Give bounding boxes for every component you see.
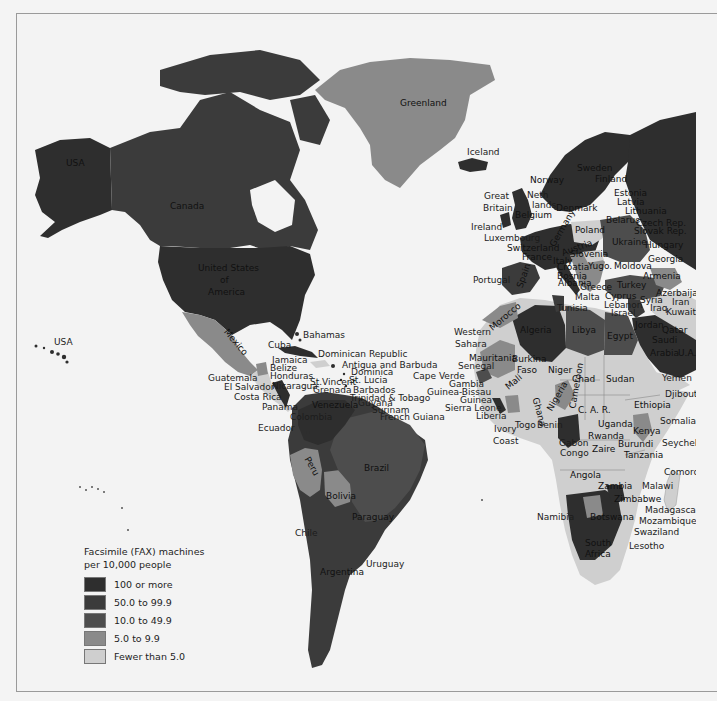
region-hispaniola [310,360,330,368]
legend-swatch [84,595,106,610]
label-niger: Niger [548,365,572,375]
label-ireland: Ireland [471,222,502,232]
label-djibouti: Djibouti [665,389,696,399]
region-arctic-islands [160,50,320,100]
label-finland: Finland [595,174,627,184]
label-netherlands-1: Neth [527,190,549,200]
label-iraq: Iraq [650,303,668,313]
region-iceland [458,158,488,172]
legend-swatch [84,649,106,664]
label-uruguay: Uruguay [366,559,405,569]
label-moldova: Moldova [614,261,652,271]
label-kuwait: Kuwait [666,307,696,317]
label-slovak-rep: Slovak Rep. [634,226,687,236]
label-grenada: Grenada [313,385,351,395]
label-israel: Israel [611,308,636,318]
label-ethiopia: Ethiopia [634,400,671,410]
label-qatar: Qatar [662,325,688,335]
label-luxembourg: Luxembourg [484,233,540,243]
label-colombia: Colombia [290,412,332,422]
label-united-states-3: America [208,287,245,297]
label-burundi: Burundi [618,439,653,449]
label-saudi-1: Saudi [652,335,677,345]
legend-item-10-49: 10.0 to 49.9 [84,612,204,628]
label-senegal: Senegal [458,361,494,371]
label-somalia: Somalia [660,416,696,426]
label-lesotho: Lesotho [629,541,665,551]
label-liberia: Liberia [476,411,506,421]
legend-item-5-9: 5.0 to 9.9 [84,630,204,646]
label-paraguay: Paraguay [352,512,395,522]
label-benin: Benin [537,420,563,430]
label-armenia: Armenia [643,271,681,281]
label-slovenia: Slovenia [570,249,608,259]
label-botswana: Botswana [590,512,634,522]
label-honduras: Honduras [270,371,314,381]
label-zambia: Zambia [598,481,632,491]
legend-label: 50.0 to 99.9 [114,597,172,608]
legend-swatch [84,613,106,628]
region-canada [110,92,318,252]
legend-title-line2: per 10,000 people [84,559,204,572]
label-belarus: Belarus [606,215,640,225]
label-usa-hawaii: USA [54,337,73,347]
label-iran: Iran [672,297,690,307]
legend-label: Fewer than 5.0 [114,651,185,662]
label-ukraine: Ukraine [612,237,647,247]
legend-item-50-99: 50.0 to 99.9 [84,594,204,610]
label-panama: Panama [262,402,298,412]
legend-label: 100 or more [114,579,173,590]
legend-label: 10.0 to 49.9 [114,615,172,626]
label-brazil: Brazil [364,463,389,473]
antigua-dot [343,373,345,375]
label-portugal: Portugal [473,275,510,285]
label-costa-rica: Costa Rica [234,392,282,402]
label-togo: Togo [514,420,536,430]
legend-title: Facsimile (FAX) machines per 10,000 peop… [84,546,204,571]
label-usa-alaska: USA [66,158,85,168]
label-burkina-2: Faso [517,365,538,375]
label-uae: U.A.E. [678,348,696,358]
label-france: France [522,252,552,262]
label-south-africa-2: Africa [585,549,611,559]
label-malta: Malta [575,292,600,302]
label-western-sahara-1: Western [454,327,491,337]
label-poland: Poland [575,225,605,235]
galapagos-dot [307,431,310,434]
label-yugoslavia: Yugo. [587,261,612,271]
region-belize-guatemala [256,362,268,376]
label-libya: Libya [572,325,596,335]
label-cuba: Cuba [268,340,291,350]
legend-item-under-5: Fewer than 5.0 [84,648,204,664]
atlantic-island-dot [481,499,483,501]
label-namibia: Namibia [537,512,574,522]
label-denmark: Denmark [556,203,598,213]
label-dominican-republic: Dominican Republic [318,349,407,359]
region-alaska [35,138,112,238]
label-mozambique: Mozambique [639,516,696,526]
label-burkina-1: Burkina [512,354,547,364]
label-kenya: Kenya [633,426,661,436]
label-bolivia: Bolivia [326,491,356,501]
hawaii-islands [35,345,69,364]
bahamas-dot [299,339,302,342]
label-congo: Congo [560,448,589,458]
label-malawi: Malawi [642,481,673,491]
label-canada: Canada [170,201,204,211]
label-ivory-coast-1: Ivory [494,424,517,434]
label-georgia: Georgia [648,254,683,264]
label-united-states-1: United States [198,263,259,273]
label-argentina: Argentina [320,567,364,577]
region-baffin [290,95,330,145]
label-ivory-coast-2: Coast [493,436,519,446]
label-jordan: Jordan [634,320,664,330]
label-sweden: Sweden [577,163,613,173]
label-tunisia: Tunisia [556,303,588,313]
label-zimbabwe: Zimbabwe [614,494,662,504]
label-united-states-2: of [220,275,230,285]
label-hungary: Hungary [645,240,684,250]
legend-title-line1: Facsimile (FAX) machines [84,546,204,559]
label-norway: Norway [530,175,565,185]
label-french-guiana: French Guiana [380,412,445,422]
label-tanzania: Tanzania [623,450,663,460]
